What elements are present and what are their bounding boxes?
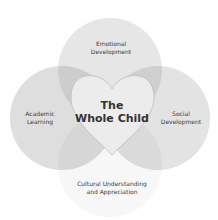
label-social-line2: Development — [161, 118, 202, 126]
label-emotional-line1: Emotional — [96, 40, 126, 47]
venn-diagram: Emotional Development Academic Learning … — [0, 0, 218, 220]
label-cultural-line2: and Appreciation — [86, 188, 137, 196]
center-title-line1: The — [101, 99, 124, 112]
label-social-line1: Social — [172, 110, 190, 117]
center-title-line2: Whole Child — [75, 112, 149, 125]
label-cultural-line1: Cultural Understanding — [77, 180, 147, 188]
label-academic-line1: Academic — [25, 110, 54, 117]
label-emotional-line2: Development — [91, 48, 132, 56]
label-academic-line2: Learning — [27, 118, 53, 126]
